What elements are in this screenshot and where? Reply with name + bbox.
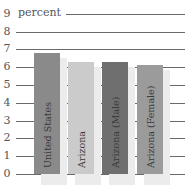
bar-label: United States xyxy=(42,102,53,168)
y-tick-label: 9 xyxy=(0,8,14,20)
y-tick-label: 6 xyxy=(0,61,14,73)
gridline xyxy=(16,49,185,50)
bar-arizona-female: Arizona (Female) xyxy=(137,65,163,174)
bar-arizona: Arizona xyxy=(68,62,94,174)
bar-label: Arizona (Male) xyxy=(110,97,121,168)
y-tick-label: 5 xyxy=(0,79,14,91)
bar-united-states: United States xyxy=(34,53,60,174)
bar-label: Arizona (Female) xyxy=(145,86,156,168)
y-tick-label: 1 xyxy=(0,150,14,162)
gridline xyxy=(16,32,185,33)
bar-arizona-male: Arizona (Male) xyxy=(102,62,128,174)
y-tick-label: 2 xyxy=(0,132,14,144)
y-tick-label: 7 xyxy=(0,43,14,55)
y-tick-label: 8 xyxy=(0,26,14,38)
y-tick-label: 4 xyxy=(0,97,14,109)
bar-label: Arizona xyxy=(76,131,87,168)
y-tick-label: 3 xyxy=(0,115,14,127)
gridline xyxy=(66,14,185,15)
y-tick-label: 0 xyxy=(0,168,14,180)
y-axis-unit-label: percent xyxy=(18,7,65,19)
